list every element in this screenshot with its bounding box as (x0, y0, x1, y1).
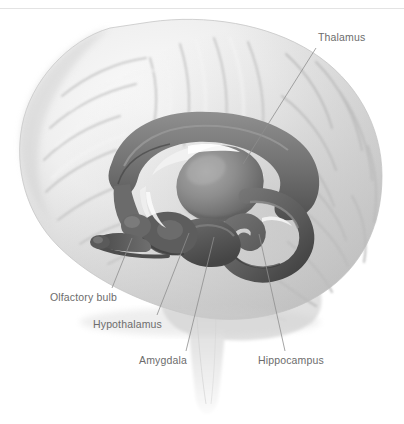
label-olfactory-bulb: Olfactory bulb (50, 291, 117, 304)
label-thalamus: Thalamus (318, 31, 365, 44)
brain-anatomy-figure: Thalamus Olfactory bulb Hypothalamus Amy… (0, 0, 404, 424)
brain-illustration (0, 0, 404, 424)
label-hippocampus: Hippocampus (258, 354, 324, 367)
label-amygdala: Amygdala (139, 354, 187, 367)
label-hypothalamus: Hypothalamus (93, 318, 162, 331)
